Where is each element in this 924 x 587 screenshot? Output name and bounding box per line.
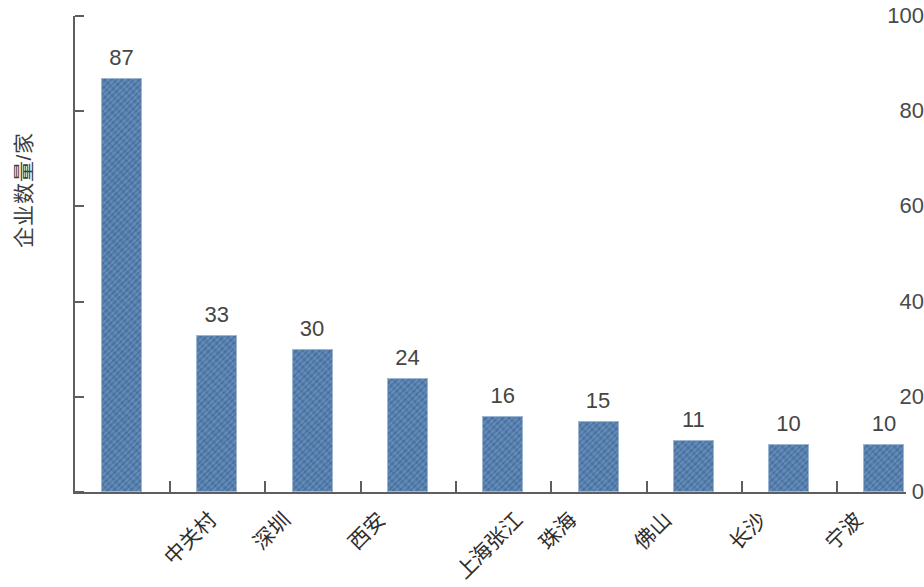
y-tick-label: 80 — [868, 98, 924, 124]
bar-value-label: 16 — [490, 383, 514, 409]
x-category-label: 佛山 — [626, 504, 677, 555]
bar-value-label: 15 — [586, 388, 610, 414]
y-tick-mark — [75, 301, 84, 303]
bar — [863, 444, 904, 492]
x-tick-mark — [169, 481, 171, 492]
x-tick-mark — [741, 481, 743, 492]
bar-value-label: 30 — [300, 316, 324, 342]
x-category-label: 西安 — [340, 504, 391, 555]
bar-value-label: 87 — [109, 45, 133, 71]
x-category-label: 长沙 — [722, 504, 773, 555]
y-axis-line — [73, 16, 75, 494]
bar — [292, 349, 333, 492]
x-tick-mark — [836, 481, 838, 492]
bar — [482, 416, 523, 492]
x-axis-line — [73, 492, 906, 494]
y-tick-label: 60 — [868, 193, 924, 219]
y-tick-label: 40 — [868, 289, 924, 315]
x-tick-mark — [646, 481, 648, 492]
y-axis-title: 企业数量/家 — [7, 90, 37, 290]
bar — [196, 335, 237, 492]
x-category-label: 珠海 — [531, 504, 582, 555]
x-tick-mark — [360, 481, 362, 492]
x-tick-mark — [550, 481, 552, 492]
y-tick-mark — [75, 205, 84, 207]
y-tick-mark — [75, 15, 84, 17]
bar — [101, 78, 142, 492]
bar-value-label: 33 — [205, 302, 229, 328]
bar — [673, 440, 714, 492]
bar-value-label: 11 — [682, 407, 705, 433]
x-tick-mark — [455, 481, 457, 492]
bar — [387, 378, 428, 492]
y-tick-mark — [75, 396, 84, 398]
bar-value-label: 10 — [872, 411, 896, 437]
bar-value-label: 10 — [776, 411, 800, 437]
x-category-label: 深圳 — [245, 504, 296, 555]
bar — [768, 444, 809, 492]
y-tick-label: 20 — [868, 384, 924, 410]
x-tick-mark — [264, 481, 266, 492]
y-tick-mark — [75, 110, 84, 112]
bar-chart: 企业数量/家 020406080100 873330241615111010 中… — [0, 0, 924, 587]
x-category-label: 中关村 — [156, 504, 222, 570]
y-tick-label: 100 — [868, 3, 924, 29]
x-category-label: 上海张江 — [448, 504, 529, 585]
bar-value-label: 24 — [395, 345, 419, 371]
bar — [578, 421, 619, 492]
x-category-label: 宁波 — [817, 504, 868, 555]
